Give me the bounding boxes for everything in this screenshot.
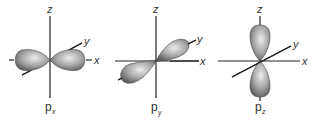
z-axis-label: z — [152, 3, 159, 15]
x-axis-label: x — [93, 54, 100, 66]
orbital-subscript: x — [51, 108, 56, 115]
y-axis-label: y — [292, 38, 300, 50]
orbital-label: p — [45, 100, 52, 114]
y-axis-label: y — [196, 33, 204, 45]
panel-pz: z y x p z — [218, 3, 308, 115]
orbital-label: p — [151, 100, 158, 114]
lobe-positive-x — [50, 49, 85, 70]
z-axis-label: z — [46, 3, 53, 15]
lobe-positive-z — [250, 25, 270, 61]
x-axis-label: x — [199, 55, 206, 67]
orbital-subscript: y — [157, 109, 162, 117]
orbital-subscript: z — [261, 108, 266, 115]
y-axis-front — [22, 71, 30, 75]
p-orbitals-diagram: z y x p x z y x p y z y x p z — [0, 0, 317, 122]
y-axis-back-end — [70, 43, 82, 50]
panel-py: z y x p y — [115, 3, 206, 117]
orbital-label: p — [255, 100, 262, 114]
lobe-negative-x — [15, 49, 50, 70]
lobe-negative-y — [121, 61, 156, 84]
panel-px: z y x p x — [9, 3, 100, 115]
y-axis-end — [188, 40, 196, 44]
y-axis-label: y — [83, 35, 91, 47]
lobe-positive-y — [156, 39, 189, 61]
z-axis-label: z — [256, 3, 263, 15]
x-axis-label: x — [301, 55, 308, 67]
